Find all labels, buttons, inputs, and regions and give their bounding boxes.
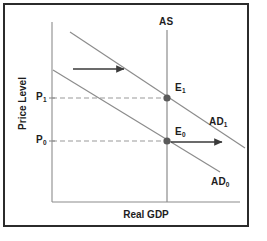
ad1-curve xyxy=(70,32,245,148)
ad0-curve-label-subscript: 0 xyxy=(226,181,230,188)
ad0-curve-label: AD0 xyxy=(211,176,230,187)
ad1-curve-label-subscript: 1 xyxy=(224,121,228,128)
as-curve-label-text: AS xyxy=(159,16,173,27)
ad0-curve xyxy=(53,70,220,172)
ad0-curve-label-text: AD xyxy=(211,176,226,187)
equilibrium-label-e1: E1 xyxy=(175,82,186,93)
equilibrium-point-e0 xyxy=(163,137,170,144)
equilibrium-point-e1 xyxy=(163,94,170,101)
price-level-tick-label-p1: P1 xyxy=(36,91,47,102)
equilibrium-label-e0: E0 xyxy=(175,126,186,137)
equilibrium-label-e0-subscript: 0 xyxy=(182,131,186,138)
equilibrium-label-e1-subscript: 1 xyxy=(182,87,186,94)
as-curve-label: AS xyxy=(159,16,173,27)
y-axis-label: Price Level xyxy=(17,64,28,144)
ad1-curve-label-text: AD xyxy=(209,116,224,127)
diagram-canvas: Price Level Real GDP AS AD1 AD0 E1 E0 P1… xyxy=(0,0,267,241)
x-axis-label: Real GDP xyxy=(52,209,240,220)
price-level-tick-label-p1-text: P xyxy=(36,91,43,102)
equilibrium-label-e0-text: E xyxy=(175,126,182,137)
ad1-curve-label: AD1 xyxy=(209,116,228,127)
price-level-tick-label-p1-subscript: 1 xyxy=(43,96,47,103)
equilibrium-label-e1-text: E xyxy=(175,82,182,93)
price-level-tick-label-p0-subscript: 0 xyxy=(43,139,47,146)
price-level-tick-label-p0-text: P xyxy=(36,134,43,145)
price-level-tick-label-p0: P0 xyxy=(36,134,47,145)
